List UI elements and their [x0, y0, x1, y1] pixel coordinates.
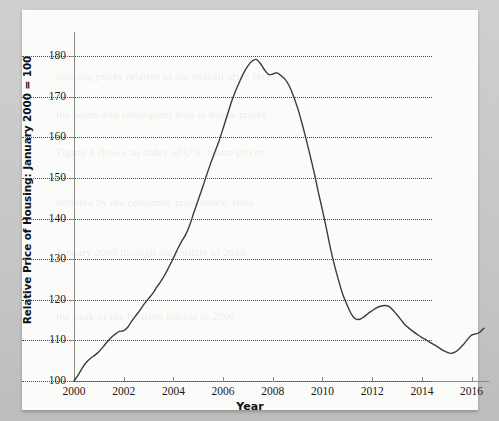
series-path-housing	[74, 59, 484, 381]
figure-card: housing prices relative to the overall p…	[22, 10, 478, 410]
series-line-housing	[22, 10, 478, 410]
figure-container: housing prices relative to the overall p…	[0, 0, 499, 421]
